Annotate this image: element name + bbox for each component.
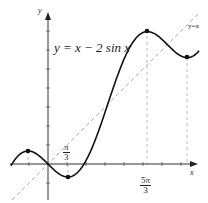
x-axis-arrow-icon [190,161,198,167]
function-plot: y x y=x y = x − 2 sin x π 3 5π 3 [0,0,208,203]
point-local-min-1 [66,175,71,180]
tick-label-pi-over-3: π 3 [63,143,70,162]
plot-canvas [0,0,208,203]
function-title: y = x − 2 sin x [54,40,130,56]
tick-label-5pi-over-3: 5π 3 [140,176,151,195]
identity-line-label: y=x [188,22,199,30]
y-axis-arrow-icon [45,12,51,20]
point-local-max-1 [26,149,31,154]
point-local-max-2 [145,29,150,34]
point-local-min-2 [185,55,190,60]
x-axis-label: x [190,168,194,177]
y-axis-label: y [38,6,42,15]
